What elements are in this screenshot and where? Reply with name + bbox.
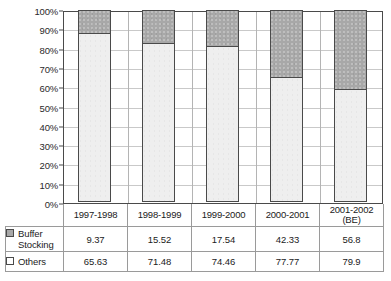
y-axis-tick-label: 30% [40, 141, 58, 152]
y-axis-tick-label: 10% [40, 179, 58, 190]
legend-swatch-icon-others [6, 257, 14, 265]
value-cell: 77.77 [256, 252, 320, 272]
value-cell: 71.48 [128, 252, 192, 272]
category-label-4: 2001-2002 (BE) [320, 204, 384, 227]
bar-segment-others[interactable] [78, 33, 111, 202]
stacked-bar[interactable] [78, 10, 111, 203]
category-label-0: 1997-1998 [64, 204, 128, 227]
category-label-2: 1999-2000 [192, 204, 256, 227]
category-line: 1998-1999 [128, 210, 191, 221]
bar-slot [320, 12, 384, 203]
legend-item-others[interactable]: Others [6, 252, 64, 272]
y-axis-tick-label: 60% [40, 83, 58, 94]
value-cell: 15.52 [128, 227, 192, 252]
value-cell: 42.33 [256, 227, 320, 252]
category-line: 1997-1998 [64, 210, 127, 221]
table-row-buffer-stocking: Buffer Stocking 9.37 15.52 17.54 42.33 5… [6, 227, 384, 252]
y-axis-tick-label: 90% [40, 25, 58, 36]
category-label-3: 2000-2001 [256, 204, 320, 227]
category-line-secondary: (BE) [320, 215, 383, 226]
legend-label-others: Others [18, 256, 46, 267]
value-cell: 56.8 [320, 227, 384, 252]
value-cell: 74.46 [192, 252, 256, 272]
plot-area [63, 11, 383, 204]
value-cell: 65.63 [64, 252, 128, 272]
category-header-row: 1997-1998 1998-1999 1999-2000 2000-2001 … [6, 204, 384, 227]
bar-segment-buffer-stocking[interactable] [142, 10, 175, 44]
legend-item-buffer-stocking[interactable]: Buffer Stocking [6, 227, 64, 252]
bar-slot [192, 12, 256, 203]
stacked-bar[interactable] [142, 10, 175, 203]
bar-segment-others[interactable] [334, 89, 367, 202]
category-line: 1999-2000 [192, 210, 255, 221]
stacked-bar[interactable] [206, 10, 239, 203]
y-axis-tick-label: 70% [40, 63, 58, 74]
table-corner-cell [6, 204, 64, 227]
stacked-bar-chart: 100%90%80%70%60%50%40%30%20%10%0% 1997-1… [0, 0, 391, 281]
bar-segment-buffer-stocking[interactable] [270, 10, 303, 78]
y-axis-tick-label: 50% [40, 102, 58, 113]
bar-segment-others[interactable] [270, 77, 303, 202]
y-axis-tick-label: 100% [35, 6, 59, 17]
y-axis-tick-label: 80% [40, 44, 58, 55]
legend-swatch-icon-buffer-stocking [6, 229, 14, 237]
bar-segment-others[interactable] [142, 43, 175, 202]
value-cell: 17.54 [192, 227, 256, 252]
y-axis-tick-label: 20% [40, 160, 58, 171]
y-axis: 100%90%80%70%60%50%40%30%20%10%0% [0, 11, 61, 204]
legend-label-line: Stocking [18, 239, 54, 250]
stacked-bar[interactable] [270, 10, 303, 203]
value-cell: 9.37 [64, 227, 128, 252]
bar-segment-others[interactable] [206, 46, 239, 202]
bar-slot [128, 12, 192, 203]
legend-label-line: Buffer [18, 228, 43, 239]
table-row-others: Others 65.63 71.48 74.46 77.77 79.9 [6, 252, 384, 272]
value-cell: 79.9 [320, 252, 384, 272]
bar-slot [64, 12, 128, 203]
category-label-1: 1998-1999 [128, 204, 192, 227]
y-axis-tick-label: 40% [40, 121, 58, 132]
bar-slot [256, 12, 320, 203]
stacked-bar[interactable] [334, 10, 367, 203]
bar-segment-buffer-stocking[interactable] [206, 10, 239, 47]
bar-segment-buffer-stocking[interactable] [334, 10, 367, 90]
legend-label-buffer-stocking: Buffer Stocking [18, 228, 54, 250]
bar-segment-buffer-stocking[interactable] [78, 10, 111, 34]
chart-data-table: 1997-1998 1998-1999 1999-2000 2000-2001 … [5, 204, 384, 272]
category-line: 2000-2001 [256, 210, 319, 221]
